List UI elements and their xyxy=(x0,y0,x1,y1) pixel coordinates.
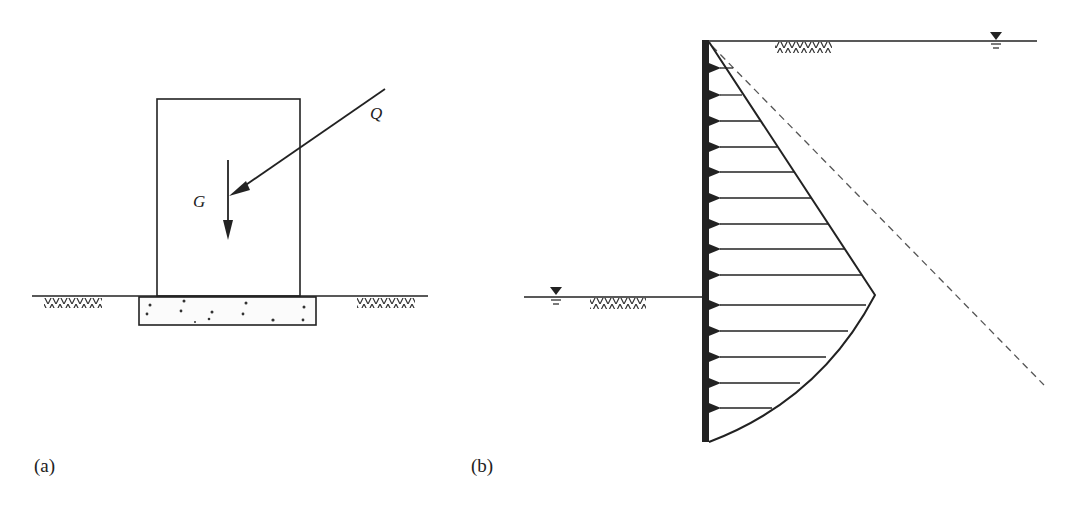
dredge-soil-hatch xyxy=(590,298,646,309)
hydrostatic-dashed-line xyxy=(712,46,1044,385)
force-q-arrow xyxy=(240,89,385,189)
force-g-arrowhead xyxy=(223,220,233,240)
retaining-wall xyxy=(702,40,709,442)
earth-pressure-envelope xyxy=(709,42,875,442)
panel-b xyxy=(524,32,1044,442)
soil-hatch-right xyxy=(357,298,415,308)
concrete-footing xyxy=(139,297,316,325)
water-table-icon-top xyxy=(990,32,1002,48)
panel-b-label: (b) xyxy=(471,455,493,477)
top-soil-hatch xyxy=(775,42,832,53)
panel-a xyxy=(32,89,428,325)
pressure-arrows xyxy=(720,68,866,408)
force-q-arrowhead xyxy=(229,181,250,196)
water-table-icon-bottom xyxy=(550,287,562,304)
force-q-label: Q xyxy=(370,104,382,124)
panel-a-label: (a) xyxy=(34,455,55,477)
figure-canvas xyxy=(0,0,1071,510)
force-g-label: G xyxy=(193,192,205,212)
soil-hatch-left xyxy=(44,298,102,308)
